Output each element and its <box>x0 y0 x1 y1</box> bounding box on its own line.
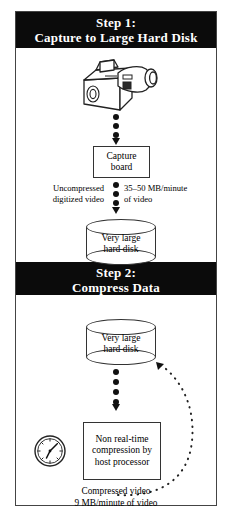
uncompressed-label: Uncompressed digitized video <box>22 183 104 204</box>
step1-header-line1: Step 1: <box>16 15 216 30</box>
clock-icon <box>32 433 68 469</box>
hard-disk-step1-line2: hard disk <box>103 244 138 256</box>
capture-board-box: Capture board <box>93 146 150 178</box>
hard-disk-cylinder-step2: Very large hard disk <box>86 319 156 365</box>
uncompressed-label-line2: digitized video <box>22 194 104 205</box>
compressed-output-line1: Compressed video <box>16 485 216 497</box>
compressed-output-label: Compressed video 9 MB/minute of video <box>16 485 216 509</box>
hard-disk-step1-line1: Very large <box>101 233 140 245</box>
hard-disk-step2-line2: hard disk <box>103 344 138 356</box>
step2-panel: Very large hard disk Non real-time compr… <box>16 295 216 507</box>
step2-header-line1: Step 2: <box>16 265 216 280</box>
hard-disk-cylinder-step1: Very large hard disk <box>86 219 156 265</box>
capture-board-line2: board <box>94 162 149 174</box>
step1-header-line2: Capture to Large Hard Disk <box>16 30 216 45</box>
step2-header: Step 2: Compress Data <box>16 262 216 295</box>
step1-panel: Capture board Uncompressed digitized vid… <box>16 48 216 262</box>
step1-header: Step 1: Capture to Large Hard Disk <box>16 12 216 48</box>
step2-header-line2: Compress Data <box>16 280 216 295</box>
diagram-frame: Step 1: Capture to Large Hard Disk <box>15 11 217 506</box>
hard-disk-step2-line1: Very large <box>101 333 140 345</box>
compressed-output-line2: 9 MB/minute of video <box>16 497 216 509</box>
camcorder-icon <box>74 56 166 112</box>
uncompressed-label-line1: Uncompressed <box>22 183 104 194</box>
bitrate-label-line2: of video <box>124 194 214 205</box>
flow-arrow-capture-to-disk <box>112 182 121 214</box>
capture-board-line1: Capture <box>94 151 149 163</box>
bitrate-label-line1: 35–50 MB/minute <box>124 183 214 194</box>
flow-arrow-camcorder-to-capture <box>112 114 121 145</box>
bitrate-label: 35–50 MB/minute of video <box>124 183 214 204</box>
